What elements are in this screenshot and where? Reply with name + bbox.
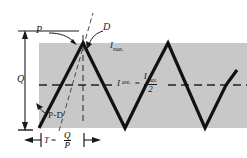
label-q: Q	[17, 74, 24, 84]
label-i-max: Imax.	[110, 41, 123, 52]
period-fraction-denominator: P	[64, 141, 71, 150]
label-period-t: T =	[44, 136, 56, 145]
fraction-q-over-p: Q P	[64, 131, 71, 151]
t-arrow-right	[92, 137, 101, 143]
p-leader-line	[49, 33, 74, 42]
label-t-symbol: T	[44, 135, 49, 145]
label-t-equals: =	[51, 135, 56, 145]
label-p-minus-d: P-D	[48, 111, 63, 120]
period-fraction-numerator: Q	[64, 131, 71, 140]
label-i-max-subscript: max.	[113, 46, 123, 52]
fraction-numerator: Imax.	[144, 72, 157, 84]
label-p: P	[36, 25, 42, 35]
label-i-ave-equation: Iave. = Imax. 2	[117, 72, 157, 94]
d-leader-line	[89, 31, 103, 44]
label-d: D	[103, 22, 110, 32]
label-equals-sign: =	[135, 79, 140, 88]
fraction-i-max-over-2: Imax. 2	[144, 72, 157, 94]
label-i-ave-symbol: I	[117, 79, 120, 88]
fraction-numerator-subscript: max.	[147, 77, 157, 83]
figure-container: P D Q P-D Imax. Iave. = Imax. 2 T = Q P	[0, 0, 247, 158]
fraction-denominator: 2	[144, 85, 157, 94]
t-arrow-left	[24, 137, 33, 143]
label-i-ave-subscript: ave.	[122, 80, 131, 86]
